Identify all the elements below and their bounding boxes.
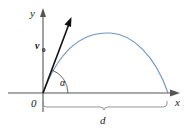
velocity-vector-subscript: 0 <box>42 46 46 54</box>
figure-canvas: y x 0 v 0 α d <box>0 0 192 133</box>
y-axis-label: y <box>29 7 35 19</box>
projectile-motion-figure: y x 0 v 0 α d <box>0 0 192 133</box>
origin-label: 0 <box>31 97 37 109</box>
launch-angle-label: α <box>60 77 66 88</box>
velocity-vector-label: v <box>35 40 40 51</box>
range-brace <box>43 101 167 110</box>
range-distance-label: d <box>100 114 106 126</box>
y-axis-arrowhead <box>40 8 46 17</box>
velocity-vector-arrowhead <box>65 17 72 27</box>
x-axis-label: x <box>174 96 180 108</box>
